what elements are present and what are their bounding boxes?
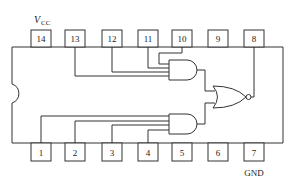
top-pin-13: 13 xyxy=(65,30,85,47)
bottom-pin-4: 4 xyxy=(138,143,158,161)
top-pin-12: 12 xyxy=(102,30,122,47)
svg-text:3: 3 xyxy=(110,148,115,158)
svg-text:12: 12 xyxy=(108,34,117,44)
svg-text:7: 7 xyxy=(252,148,257,158)
top-pin-14: 14 xyxy=(31,30,51,47)
bottom-pin-6: 6 xyxy=(208,143,228,161)
bottom-pin-2: 2 xyxy=(65,143,85,161)
and-gate-top xyxy=(169,60,197,80)
ic-pinout-diagram: V CC 14 13 12 11 10 9 8 1 2 3 xyxy=(0,0,293,187)
wire-nor-out-pin8 xyxy=(251,47,254,97)
svg-text:4: 4 xyxy=(146,148,151,158)
svg-text:8: 8 xyxy=(252,34,257,44)
vcc-subscript: CC xyxy=(41,19,51,27)
wire-pin2 xyxy=(75,121,169,143)
and-gate-bottom xyxy=(169,114,197,134)
wire-pin4 xyxy=(148,130,169,143)
top-pin-8: 8 xyxy=(244,30,264,47)
svg-text:14: 14 xyxy=(37,34,47,44)
svg-text:11: 11 xyxy=(144,34,153,44)
bottom-pin-1: 1 xyxy=(31,143,51,161)
wire-and-top-out xyxy=(197,70,215,91)
nor-inversion-bubble xyxy=(246,95,251,100)
top-pin-9: 9 xyxy=(208,30,228,47)
bottom-pin-3: 3 xyxy=(102,143,122,161)
top-pin-11: 11 xyxy=(138,30,158,47)
svg-text:1: 1 xyxy=(39,148,44,158)
nor-gate xyxy=(213,86,246,108)
gnd-label: GND xyxy=(244,168,264,178)
svg-text:2: 2 xyxy=(73,148,78,158)
top-pin-10: 10 xyxy=(172,30,192,47)
bottom-pin-5: 5 xyxy=(172,143,192,161)
svg-text:10: 10 xyxy=(178,34,188,44)
bottom-pin-7: 7 xyxy=(244,143,264,161)
wire-pin3 xyxy=(112,125,169,143)
wire-and-bottom-out xyxy=(197,103,215,124)
svg-text:5: 5 xyxy=(180,148,185,158)
svg-text:6: 6 xyxy=(216,148,221,158)
svg-text:9: 9 xyxy=(216,34,221,44)
svg-text:13: 13 xyxy=(71,34,81,44)
